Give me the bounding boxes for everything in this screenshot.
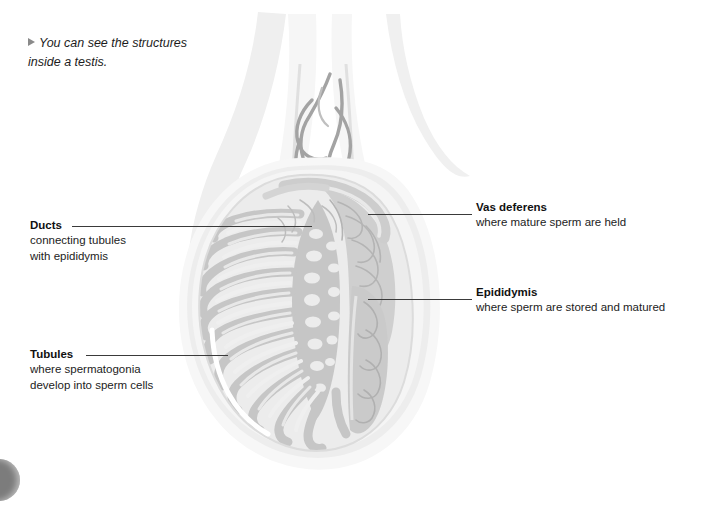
leader-line-ducts xyxy=(72,226,312,227)
callout-ducts-title: Ducts xyxy=(30,218,126,232)
leader-line-tubules xyxy=(86,355,228,356)
callout-epididymis-desc-1: where sperm are stored and matured xyxy=(476,299,665,315)
callout-epididymis-title: Epididymis xyxy=(476,285,665,299)
callout-epididymis: Epididymis where sperm are stored and ma… xyxy=(476,285,665,315)
callout-ducts-desc-2: with epididymis xyxy=(30,248,126,264)
callout-tubules-title: Tubules xyxy=(30,347,153,361)
callout-tubules-desc-1: where spermatogonia xyxy=(30,361,153,377)
callout-ducts-desc-1: connecting tubules xyxy=(30,232,126,248)
callout-tubules-desc-2: develop into sperm cells xyxy=(30,377,153,393)
callout-vas-deferens-title: Vas deferens xyxy=(476,200,626,214)
callout-vas-deferens: Vas deferens where mature sperm are held xyxy=(476,200,626,230)
leader-line-vas-deferens xyxy=(368,214,472,215)
cord-wall-right xyxy=(386,14,470,177)
triangle-bullet-icon xyxy=(28,38,35,46)
figure-caption: You can see the structures inside a test… xyxy=(28,34,243,72)
figure-page: You can see the structures inside a test… xyxy=(0,0,703,515)
callout-vas-deferens-desc-1: where mature sperm are held xyxy=(476,214,626,230)
caption-line-2: inside a testis. xyxy=(28,55,107,69)
caption-line-1: You can see the structures xyxy=(39,36,187,50)
leader-line-epididymis xyxy=(368,299,472,300)
callout-ducts: Ducts connecting tubules with epididymis xyxy=(30,218,126,264)
callout-tubules: Tubules where spermatogonia develop into… xyxy=(30,347,153,393)
